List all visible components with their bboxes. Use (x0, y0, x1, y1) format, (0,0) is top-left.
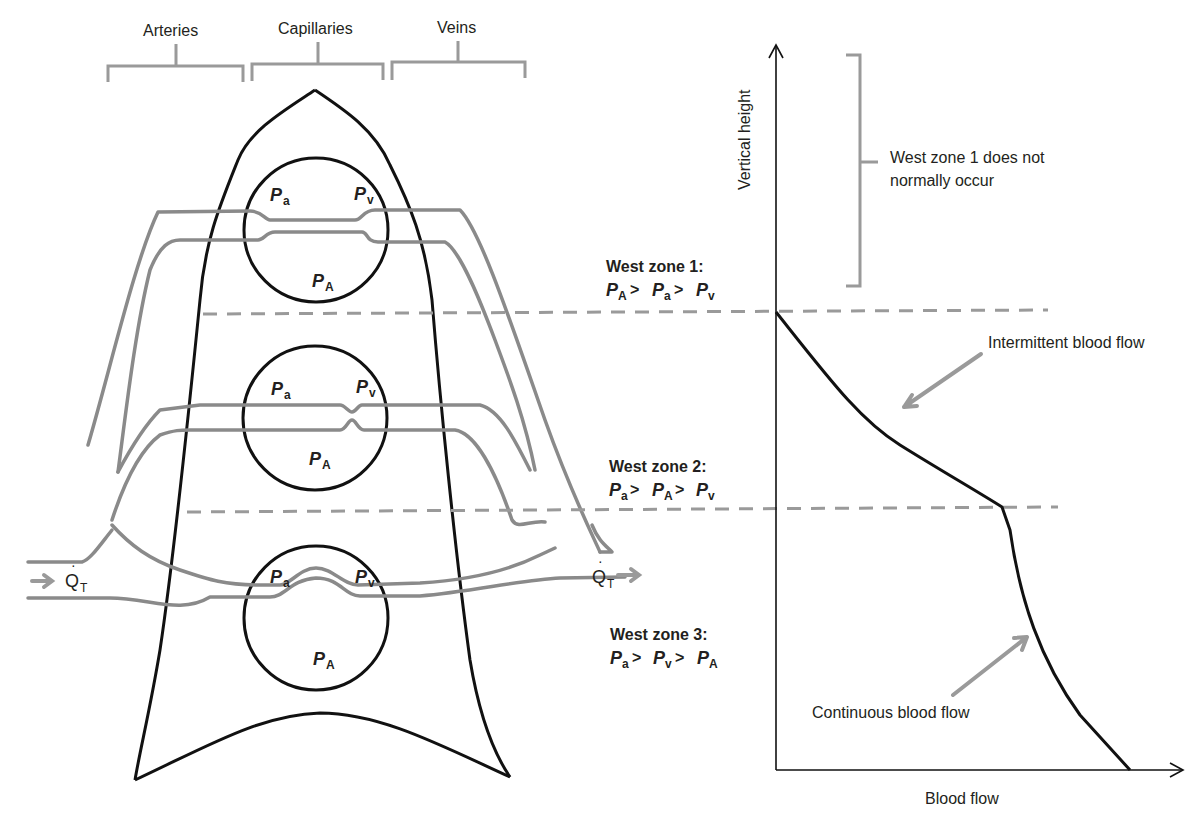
svg-text:v: v (367, 193, 374, 207)
svg-text:a: a (622, 657, 629, 671)
svg-text:a: a (283, 576, 290, 590)
svg-text:v: v (708, 489, 715, 503)
label-veins: Veins (437, 19, 476, 36)
main-vessel-top-left (28, 530, 112, 562)
svg-text:>: > (675, 649, 684, 666)
main-vessel-bottom (28, 577, 625, 605)
arteries-bracket (108, 44, 243, 82)
svg-text:West zone 1:: West zone 1: (606, 258, 704, 275)
svg-text:P: P (313, 649, 326, 669)
continuous-arrow-icon (953, 637, 1027, 695)
zone3-capillary-top (112, 525, 555, 585)
pA-label: P (312, 271, 325, 291)
intermittent-label: Intermittent blood flow (988, 334, 1145, 351)
svg-text:P: P (270, 567, 283, 587)
outflow-q-label: Q (592, 567, 606, 587)
pa-label: P (270, 185, 283, 205)
svg-text:a: a (664, 289, 671, 303)
inflow-arrow-icon (32, 575, 52, 587)
svg-text:a: a (283, 194, 290, 208)
lung-outline (135, 90, 510, 780)
svg-text:P: P (355, 567, 368, 587)
label-arteries: Arteries (143, 22, 198, 39)
alveolus-labels-zone1: P a P v P A (270, 184, 374, 294)
header-labels: Arteries Capillaries Veins (143, 19, 476, 39)
zone2-label: West zone 2: P a > P A > P v (609, 458, 715, 503)
zone1-zone2-boundary (203, 310, 1048, 314)
svg-text:P: P (356, 377, 369, 397)
svg-text:>: > (675, 481, 684, 498)
x-axis-label: Blood flow (925, 790, 999, 807)
west-zones-figure: Arteries Capillaries Veins (0, 0, 1199, 834)
zone1-capillary-upper (88, 210, 600, 552)
svg-text:v: v (369, 386, 376, 400)
zone1-note-line2: normally occur (890, 172, 995, 189)
svg-text:P: P (271, 379, 284, 399)
inflow-q-sub: T (80, 581, 88, 595)
svg-text:A: A (322, 458, 331, 472)
svg-text:A: A (325, 280, 334, 294)
lung-outer-right (315, 90, 510, 777)
outflow-arrow-icon (618, 569, 639, 581)
svg-text:>: > (630, 481, 639, 498)
label-capillaries: Capillaries (278, 20, 353, 37)
intermittent-arrow-icon (904, 354, 981, 407)
header-brackets (108, 41, 525, 82)
chart: Vertical height Blood flow West zone 1 d… (736, 45, 1183, 807)
svg-text:>: > (674, 281, 683, 298)
lung-bottom (135, 713, 510, 780)
veins-bracket (392, 41, 525, 80)
svg-text:a: a (621, 489, 628, 503)
svg-text:>: > (632, 649, 641, 666)
blood-flow-curve (776, 312, 1130, 770)
y-axis-label: Vertical height (736, 89, 753, 190)
svg-text:A: A (618, 289, 627, 303)
svg-text:P: P (309, 449, 322, 469)
continuous-label: Continuous blood flow (812, 704, 970, 721)
zone1-note-bracket (846, 55, 878, 286)
svg-text:v: v (708, 289, 715, 303)
zone2-zone3-boundary (187, 507, 1058, 512)
alveolus-labels-zone2: P a P v P A (271, 377, 376, 472)
capillaries-bracket (252, 42, 383, 81)
inflow-q-dot: · (71, 557, 76, 573)
outflow-q-dot: · (598, 553, 603, 569)
svg-text:v: v (665, 657, 672, 671)
alveolus-labels-zone3: P a P v P A (270, 567, 375, 672)
svg-text:West zone 3:: West zone 3: (610, 626, 708, 643)
svg-text:v: v (368, 576, 375, 590)
svg-text:A: A (326, 658, 335, 672)
zone1-note-line1: West zone 1 does not (890, 149, 1045, 166)
svg-text:A: A (709, 657, 718, 671)
outflow-q-sub: T (607, 577, 615, 591)
svg-text:West zone 2:: West zone 2: (609, 458, 707, 475)
zone1-capillary-lower (118, 232, 535, 472)
zone3-label: West zone 3: P a > P v > P A (610, 626, 718, 671)
pv-label: P (354, 184, 367, 204)
svg-text:a: a (284, 388, 291, 402)
svg-text:>: > (630, 281, 639, 298)
inflow-q-label: Q (65, 571, 79, 591)
zone1-label: West zone 1: P A > P a > P v (606, 258, 715, 303)
svg-text:A: A (664, 489, 673, 503)
